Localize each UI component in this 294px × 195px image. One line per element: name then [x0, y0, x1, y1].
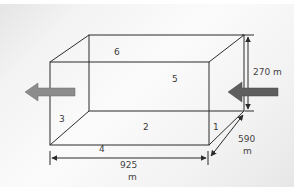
length-value: 925 — [120, 160, 137, 170]
edge-top-right — [209, 35, 244, 62]
width-unit: m — [243, 146, 252, 156]
diagram-canvas: 6 5 3 2 1 4 270 m 925 m 590 m — [0, 0, 294, 195]
face-label-5: 5 — [172, 74, 178, 84]
length-unit: m — [128, 172, 137, 182]
edge-top-left — [50, 35, 89, 62]
width-value: 590 — [238, 134, 255, 144]
face-label-3: 3 — [59, 114, 65, 124]
inflow-arrow — [228, 82, 278, 102]
back-face-outline — [89, 35, 244, 111]
height-label: 270 m — [253, 67, 282, 77]
face-label-6: 6 — [114, 47, 120, 57]
box-diagram: 6 5 3 2 1 4 270 m 925 m 590 m — [0, 0, 294, 195]
front-face-outline — [50, 62, 209, 145]
edge-bottom-left — [50, 111, 89, 145]
right-arrow-icon — [228, 82, 278, 102]
face-label-1: 1 — [213, 122, 219, 132]
face-label-4: 4 — [99, 144, 105, 154]
face-label-2: 2 — [143, 122, 149, 132]
